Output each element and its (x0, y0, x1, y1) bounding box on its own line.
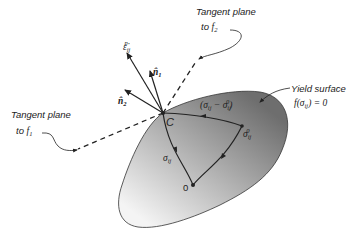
yield-surface-diagram: Tangent plane to f2 Tangent plane to f1 … (0, 0, 360, 245)
strain-rate-label: ε̇ijp (123, 39, 131, 53)
tangent-f2-label-line2: to f2 (201, 21, 218, 33)
point-sigma0 (240, 124, 244, 128)
tangent-f1-label-line2: to f1 (16, 125, 32, 137)
n2-label: n̂2 (118, 96, 127, 107)
plastic-strain-rate-vector (127, 53, 163, 113)
yield-surface-label: Yield surface (291, 83, 346, 94)
point-c-label: C (166, 116, 174, 128)
point-c (161, 111, 165, 115)
tangent-f1-leader (42, 133, 77, 151)
yield-surface-region (119, 91, 288, 227)
tangent-f2-leader (199, 30, 241, 59)
stress-difference-label: (σij − σij0) (200, 98, 232, 111)
point-origin (191, 183, 195, 187)
yield-surface-equation: f(σij) = 0 (294, 98, 327, 109)
tangent-f2-label-line1: Tangent plane (196, 6, 256, 17)
n1-label: n̂1 (153, 67, 162, 78)
tangent-f1-label-line1: Tangent plane (11, 109, 71, 120)
origin-label: 0 (183, 182, 188, 193)
